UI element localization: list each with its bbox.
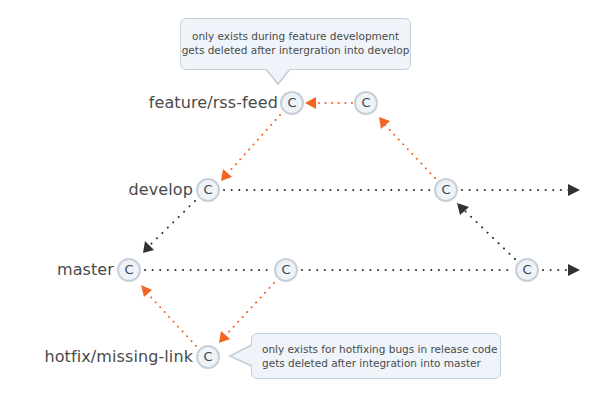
hotfix-callout-line-1: only exists for hotfixing bugs in releas… (262, 342, 500, 356)
develop-continue-arrow-icon (568, 184, 580, 196)
feature-callout-line-1: only exists during feature development (181, 29, 410, 43)
branch-lines (148, 103, 435, 346)
commit-node-develop-2[interactable]: C (434, 178, 458, 202)
master-continue-arrow-icon (568, 264, 580, 276)
branch-label-hotfix: hotfix/missing-link (44, 347, 193, 366)
branch-arrowheads (141, 97, 390, 343)
feature-to-develop-arrow-icon (221, 169, 232, 181)
commit-node-master-3[interactable]: C (515, 258, 539, 282)
master-to-hotfix-arrow-icon (219, 331, 230, 343)
branch-label-feature: feature/rss-feed (149, 93, 278, 112)
commit-node-hotfix-1[interactable]: C (196, 345, 220, 369)
feature-branch-callout: only exists during feature development g… (180, 18, 411, 70)
commit-node-feature-2[interactable]: C (354, 91, 378, 115)
develop-to-master-arrow-icon (143, 241, 154, 253)
commit-node-master-2[interactable]: C (274, 258, 298, 282)
branch-label-master: master (57, 260, 114, 279)
commit-node-feature-1[interactable]: C (280, 91, 304, 115)
master-to-develop-arrow-icon (457, 203, 469, 215)
feature-callout-line-2: gets deleted after intergration into dev… (181, 43, 410, 57)
branch-label-develop: develop (129, 180, 193, 199)
merge-lines (145, 190, 570, 270)
develop-to-feature-arrow-icon (379, 117, 390, 129)
commit-node-develop-1[interactable]: C (196, 178, 220, 202)
commit-node-master-1[interactable]: C (117, 258, 141, 282)
hotfix-branch-callout: only exists for hotfixing bugs in releas… (251, 333, 501, 379)
hotfix-to-master-arrow-icon (141, 285, 152, 297)
hotfix-callout-line-2: gets deleted after integration into mast… (262, 356, 500, 370)
feature-commit-arrow-icon (305, 97, 316, 109)
